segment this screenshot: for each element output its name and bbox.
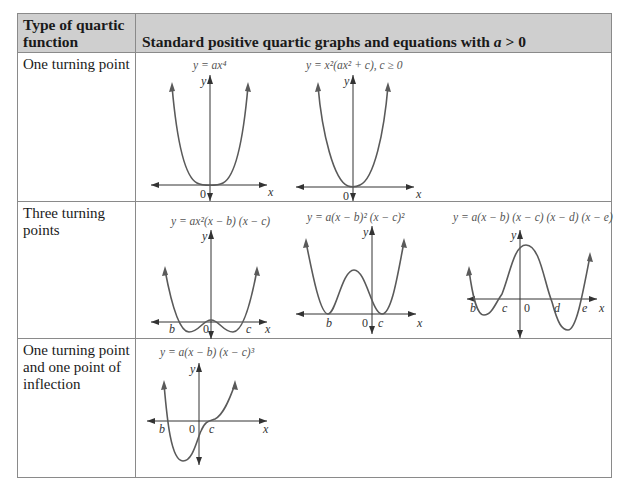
curve-arrow-icon <box>245 82 251 92</box>
table-row-turning-and-inflection: One turning point and one point of infle… <box>18 339 611 477</box>
y-axis-label: y <box>343 74 350 88</box>
y-axis-down-arrow-icon <box>196 457 202 465</box>
y-axis-up-arrow-icon <box>350 75 356 84</box>
equation-label: y = a(x − b) (x − c)³ <box>159 346 255 359</box>
curve-arrow-icon <box>587 252 593 262</box>
origin-label: 0 <box>200 187 206 201</box>
header-standard-graphs: Standard positive quartic graphs and equ… <box>142 33 526 50</box>
equation-label: y = a(x − b)² (x − c)² <box>306 211 405 224</box>
curve-a-x-b2-x-c2 <box>306 242 404 314</box>
x-axis-label: x <box>267 185 274 199</box>
y-axis-label: y <box>362 225 369 239</box>
graph-a-x-b2-x-c2-svg: y = a(x − b)² (x − c)² y x 0 b c <box>296 202 436 339</box>
graph-ax2-x-b-x-c-svg: y = ax²(x − b) (x − c) y x 0 b c <box>139 202 279 339</box>
origin-label: 0 <box>524 301 530 315</box>
curve-arrow-icon <box>232 380 238 390</box>
root-c-label: c <box>209 422 215 436</box>
x-axis-left-arrow-icon <box>147 418 155 424</box>
curve-arrow-icon <box>385 82 391 92</box>
origin-label: 0 <box>189 422 195 436</box>
root-c-label: c <box>378 316 384 330</box>
table-row-three-turning-points: Three turning points y = ax²(x − b) (x −… <box>18 202 611 339</box>
y-axis-down-arrow-icon <box>369 326 375 334</box>
y-axis-up-arrow-icon <box>207 75 213 84</box>
origin-label: 0 <box>343 189 349 203</box>
x-axis-label: x <box>598 301 605 315</box>
table-header-row: Type of quartic function Standard positi… <box>18 14 611 53</box>
y-axis-down-arrow-icon <box>517 330 523 338</box>
y-axis-up-arrow-icon <box>196 363 202 372</box>
graph-ax2-x-b-x-c: y = ax²(x − b) (x − c) y x 0 b c <box>139 202 279 339</box>
x-axis-right-arrow-icon <box>408 311 416 317</box>
graph-a-x-b-x-c-x-d-x-e: y = a(x − b) (x − c) (x − d) (x − e) y x… <box>454 202 614 339</box>
equation-label: y = ax²(x − b) (x − c) <box>170 215 270 228</box>
curve-arrow-icon <box>303 238 309 248</box>
curve-a-x-b-x-c-x-d-x-e <box>469 245 590 330</box>
origin-label: 0 <box>362 316 368 330</box>
graph-ax4-svg: y = ax⁴ y x 0 <box>139 53 279 202</box>
y-axis-up-arrow-icon <box>369 226 375 235</box>
y-axis-up-arrow-icon <box>208 230 214 239</box>
x-axis-label: x <box>416 316 423 330</box>
graph-x2-ax2-plus-c: y = x²(ax² + c), c ≥ 0 y x 0 <box>276 53 436 202</box>
root-c-label: c <box>502 301 508 315</box>
x-axis-left-arrow-icon <box>151 319 159 325</box>
y-axis-down-arrow-icon <box>207 193 213 201</box>
y-axis-up-arrow-icon <box>517 230 523 239</box>
row-label: Three turning points <box>23 205 133 239</box>
x-axis-label: x <box>415 187 422 201</box>
curve-arrow-icon <box>169 82 175 92</box>
row-label: One turning point <box>23 56 133 73</box>
equation-label: y = a(x − b) (x − c) (x − d) (x − e) <box>452 211 613 224</box>
x-axis-right-arrow-icon <box>589 296 597 302</box>
graph-a-x-b-x-c3: y = a(x − b) (x − c)³ y x 0 b c <box>139 339 299 477</box>
curve-arrow-icon <box>401 238 407 248</box>
graph-a-x-b2-x-c2: y = a(x − b)² (x − c)² y x 0 b c <box>296 202 436 339</box>
curve-arrow-icon <box>466 266 472 276</box>
quartic-functions-table: Type of quartic function Standard positi… <box>17 13 612 478</box>
header-type-of-function: Type of quartic function <box>23 16 135 50</box>
y-axis-label: y <box>510 228 517 242</box>
row-label: One turning point and one point of infle… <box>23 342 133 393</box>
graph-x2-ax2-plus-c-svg: y = x²(ax² + c), c ≥ 0 y x 0 <box>276 53 436 202</box>
y-axis-label: y <box>189 362 196 376</box>
x-axis-right-arrow-icon <box>259 182 267 188</box>
x-axis-label: x <box>264 322 271 336</box>
curve-arrow-icon <box>162 266 168 276</box>
graph-a-x-b-x-c3-svg: y = a(x − b) (x − c)³ y x 0 b c <box>139 339 299 477</box>
curve-arrow-icon <box>315 82 321 92</box>
root-b-label: b <box>159 422 165 436</box>
x-axis-left-arrow-icon <box>296 311 304 317</box>
x-axis-label: x <box>262 422 269 436</box>
y-axis-label: y <box>201 229 208 243</box>
curve-arrow-icon <box>161 380 167 390</box>
equation-label: y = ax⁴ <box>192 59 226 72</box>
x-axis-left-arrow-icon <box>296 184 304 190</box>
curve-arrow-icon <box>254 266 260 276</box>
root-b-label: b <box>326 316 332 330</box>
x-axis-right-arrow-icon <box>406 184 414 190</box>
root-c-label: c <box>246 322 252 336</box>
y-axis-label: y <box>200 74 207 88</box>
table-row-one-turning-point: One turning point y = ax⁴ y x 0 y = x²(a… <box>18 53 611 202</box>
graph-ax4: y = ax⁴ y x 0 <box>139 53 279 202</box>
y-axis-down-arrow-icon <box>350 193 356 201</box>
x-axis-left-arrow-icon <box>151 182 159 188</box>
equation-label: y = x²(ax² + c), c ≥ 0 <box>305 59 403 72</box>
root-e-label: e <box>582 301 588 315</box>
graph-a-x-b-x-c-x-d-x-e-svg: y = a(x − b) (x − c) (x − d) (x − e) y x… <box>454 202 614 339</box>
root-b-label: b <box>169 322 175 336</box>
